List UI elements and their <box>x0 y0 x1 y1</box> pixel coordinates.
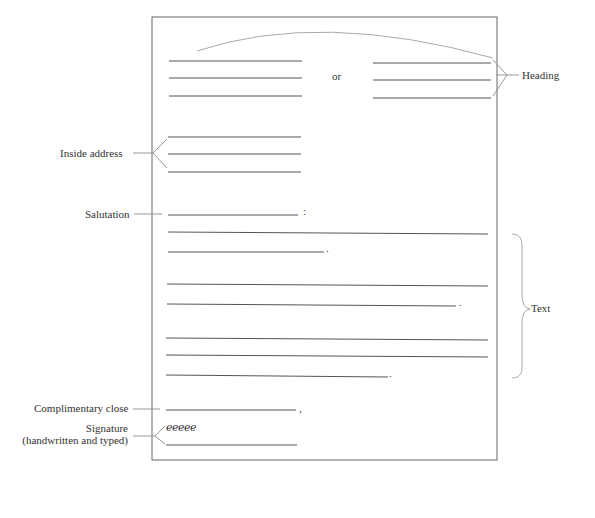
heading-arc <box>197 32 493 58</box>
page-border <box>152 17 497 460</box>
paragraph-1-period: . <box>326 242 329 254</box>
inside-address-lines <box>168 137 301 172</box>
text-brace <box>512 234 530 378</box>
label-complimentary-close: Complimentary close <box>34 402 128 415</box>
label-text: Text <box>531 302 550 315</box>
inside-address-leader <box>133 139 167 168</box>
heading-left-lines <box>169 61 302 96</box>
close-comma: , <box>299 402 302 414</box>
label-inside-address: Inside address <box>60 147 123 160</box>
heading-right-lines <box>373 63 491 98</box>
or-text: or <box>332 70 341 82</box>
signature-leader <box>133 426 165 444</box>
salutation-colon: : <box>303 205 306 217</box>
paragraph-2-period: . <box>459 296 462 308</box>
paragraph-3-period: . <box>389 367 392 379</box>
text-paragraph-2 <box>167 284 488 306</box>
label-signature-sub: (handwritten and typed) <box>12 434 128 447</box>
signature-handwritten: eeeee <box>166 421 196 434</box>
text-paragraph-3 <box>166 338 488 377</box>
label-salutation: Salutation <box>85 208 130 221</box>
label-heading: Heading <box>522 69 559 82</box>
